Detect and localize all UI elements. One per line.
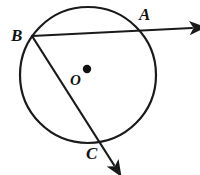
label-center-o: O bbox=[70, 72, 81, 88]
label-point-a: A bbox=[138, 5, 150, 24]
geometry-figure: O B A C bbox=[0, 0, 200, 175]
geometry-canvas: O B A C bbox=[0, 0, 200, 175]
ray-b-to-a bbox=[32, 28, 192, 36]
ray-b-to-c bbox=[32, 36, 114, 165]
center-dot bbox=[83, 65, 91, 73]
label-point-c: C bbox=[86, 144, 98, 163]
label-point-b: B bbox=[10, 26, 22, 45]
